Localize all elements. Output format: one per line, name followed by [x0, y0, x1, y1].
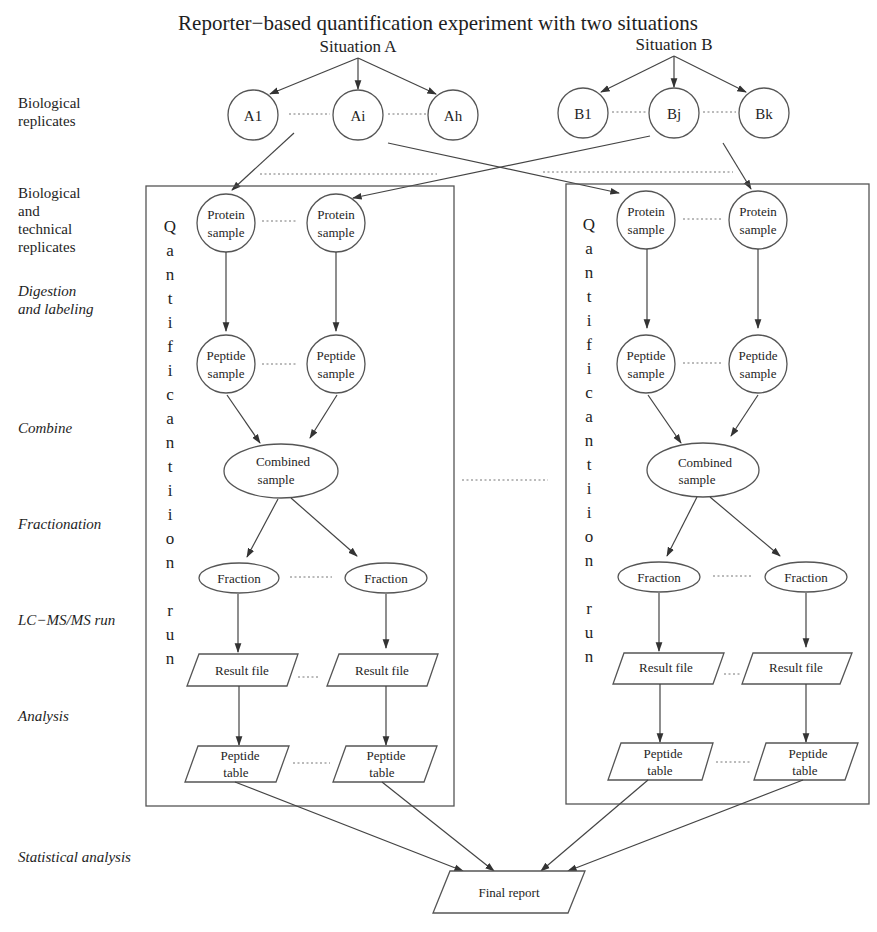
label-bio-tech-4: replicates	[18, 239, 76, 255]
combined-sample-node	[647, 443, 759, 497]
peptide-sample-node	[197, 335, 255, 393]
svg-text:o: o	[166, 529, 175, 548]
svg-text:n: n	[166, 265, 175, 284]
svg-text:i: i	[587, 503, 592, 522]
svg-text:u: u	[585, 623, 594, 642]
svg-text:sample: sample	[318, 366, 355, 381]
svg-text:Result file: Result file	[355, 663, 409, 678]
svg-text:Result file: Result file	[769, 660, 823, 675]
svg-text:i: i	[168, 361, 173, 380]
label-bio-replicates-2: replicates	[18, 113, 76, 129]
situation-a-replicates: A1 Ai Ah	[228, 58, 478, 140]
replicate-ah-label: Ah	[444, 108, 463, 124]
svg-text:t: t	[587, 455, 592, 474]
svg-text:r: r	[167, 601, 173, 620]
svg-text:Protein: Protein	[739, 204, 777, 219]
label-combine: Combine	[18, 420, 73, 436]
peptide-sample-node	[729, 335, 787, 393]
diagram-title: Reporter−based quantification experiment…	[178, 11, 698, 35]
protein-sample-node	[617, 191, 675, 249]
svg-text:Result file: Result file	[639, 660, 693, 675]
replicate-ai-label: Ai	[351, 108, 366, 124]
svg-text:Protein: Protein	[207, 207, 245, 222]
svg-text:sample: sample	[258, 472, 295, 487]
replicate-bk-label: Bk	[755, 106, 773, 122]
replicate-b1-label: B1	[574, 106, 592, 122]
svg-text:Peptide: Peptide	[207, 348, 246, 363]
svg-text:c: c	[585, 383, 593, 402]
quantification-run-box-right: Q a n t i f i c a n t i i o n r u n Prot…	[566, 184, 869, 804]
svg-text:sample: sample	[208, 225, 245, 240]
svg-text:i: i	[587, 479, 592, 498]
svg-text:i: i	[168, 313, 173, 332]
svg-text:Result file: Result file	[215, 663, 269, 678]
label-bio-tech-3: technical	[18, 221, 72, 237]
label-bio-replicates-1: Biological	[18, 95, 81, 111]
replicate-bj-label: Bj	[667, 106, 681, 122]
protein-sample-node	[307, 194, 365, 252]
label-digestion-2: and labeling	[18, 301, 94, 317]
peptide-sample-node	[617, 335, 675, 393]
replicate-a1-label: A1	[244, 108, 262, 124]
svg-text:Peptide: Peptide	[739, 348, 778, 363]
label-digestion-1: Digestion	[17, 283, 76, 299]
svg-text:a: a	[166, 241, 174, 260]
stage-labels: Biological replicates Biological and tec…	[17, 95, 131, 865]
svg-text:Peptide: Peptide	[317, 348, 356, 363]
svg-text:table: table	[223, 765, 248, 780]
svg-text:Peptide: Peptide	[627, 348, 666, 363]
svg-text:sample: sample	[208, 366, 245, 381]
svg-text:i: i	[168, 505, 173, 524]
svg-text:t: t	[168, 289, 173, 308]
svg-text:sample: sample	[318, 225, 355, 240]
svg-text:n: n	[166, 649, 175, 668]
situation-a-label: Situation A	[320, 37, 398, 56]
svg-text:t: t	[168, 457, 173, 476]
vertical-label-left: Q a n t i f i c a n t i i o n r u n	[164, 217, 176, 668]
svg-text:Protein: Protein	[317, 207, 355, 222]
svg-text:a: a	[166, 409, 174, 428]
label-bio-tech-2: and	[18, 203, 40, 219]
vertical-label-right: Q a n t i f i c a n t i i o n r u n	[583, 215, 595, 666]
svg-text:Q: Q	[583, 215, 595, 234]
svg-text:table: table	[369, 765, 394, 780]
svg-text:Fraction: Fraction	[784, 570, 828, 585]
svg-text:n: n	[166, 553, 175, 572]
final-report-label: Final report	[478, 885, 539, 900]
label-analysis: Analysis	[17, 708, 69, 724]
protein-sample-node	[729, 191, 787, 249]
diagram-canvas: Reporter−based quantification experiment…	[0, 0, 877, 932]
svg-text:sample: sample	[740, 366, 777, 381]
svg-text:Peptide: Peptide	[644, 746, 683, 761]
svg-text:t: t	[587, 287, 592, 306]
svg-text:Fraction: Fraction	[637, 570, 681, 585]
svg-text:Peptide: Peptide	[367, 748, 406, 763]
svg-text:a: a	[585, 239, 593, 258]
protein-sample-node	[197, 194, 255, 252]
peptide-sample-node	[307, 335, 365, 393]
combined-sample-node	[224, 444, 338, 498]
svg-text:n: n	[585, 551, 594, 570]
svg-text:n: n	[585, 263, 594, 282]
svg-text:u: u	[166, 625, 175, 644]
svg-text:f: f	[167, 337, 173, 356]
svg-text:Combined: Combined	[678, 455, 733, 470]
svg-text:i: i	[168, 481, 173, 500]
svg-text:a: a	[585, 407, 593, 426]
label-statistical: Statistical analysis	[18, 849, 131, 865]
svg-text:n: n	[585, 647, 594, 666]
svg-text:Fraction: Fraction	[364, 571, 408, 586]
svg-text:sample: sample	[740, 222, 777, 237]
svg-text:Q: Q	[164, 217, 176, 236]
svg-text:i: i	[587, 359, 592, 378]
svg-text:f: f	[586, 335, 592, 354]
situation-b-label: Situation B	[636, 35, 713, 54]
svg-text:Peptide: Peptide	[789, 746, 828, 761]
svg-text:Peptide: Peptide	[221, 748, 260, 763]
label-bio-tech-1: Biological	[18, 185, 81, 201]
svg-text:Protein: Protein	[627, 204, 665, 219]
svg-text:sample: sample	[628, 366, 665, 381]
situation-b-replicates: B1 Bj Bk	[558, 56, 789, 138]
svg-text:Fraction: Fraction	[217, 571, 261, 586]
svg-text:table: table	[647, 763, 672, 778]
